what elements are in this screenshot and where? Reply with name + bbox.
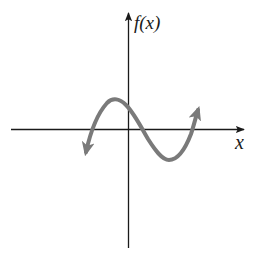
x-axis-label: x: [234, 131, 244, 153]
y-axis-label: f(x): [134, 12, 160, 34]
function-graph: f(x) x: [0, 0, 255, 254]
